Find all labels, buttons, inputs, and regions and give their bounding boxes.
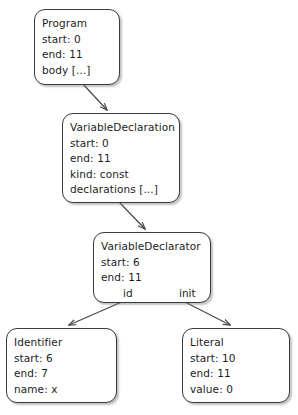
node-property-declarations: declarations [...] [63, 182, 179, 198]
node-property-end: end: 11 [183, 366, 289, 382]
node-port-init[interactable]: init [179, 286, 196, 302]
edge-variabledeclarator-to-identifier [69, 301, 124, 325]
node-property-end: end: 7 [7, 366, 116, 382]
node-property-start: start: 10 [183, 351, 289, 367]
ast-node-program[interactable]: Program start: 0 end: 11 body [...] [34, 9, 120, 85]
edge-variabledeclarator-to-literal [183, 301, 230, 325]
node-title-variable-declaration: VariableDeclaration [63, 120, 179, 136]
node-port-row: id init [94, 286, 210, 302]
node-property-body: body [...] [35, 63, 119, 79]
node-property-start: start: 0 [35, 32, 119, 48]
node-property-start: start: 6 [7, 351, 116, 367]
node-property-end: end: 11 [35, 47, 119, 63]
edge-variabledeclaration-to-variabledeclarator [120, 203, 145, 229]
node-property-end: end: 11 [94, 270, 210, 286]
node-property-kind: kind: const [63, 167, 179, 183]
node-property-name: name: x [7, 382, 116, 398]
node-property-end: end: 11 [63, 151, 179, 167]
edge-program-to-variabledeclaration [82, 83, 107, 110]
node-property-start: start: 0 [63, 136, 179, 152]
ast-node-variable-declaration[interactable]: VariableDeclaration start: 0 end: 11 kin… [62, 113, 180, 203]
node-title-identifier: Identifier [7, 335, 116, 351]
ast-node-identifier[interactable]: Identifier start: 6 end: 7 name: x [6, 328, 117, 403]
node-title-program: Program [35, 16, 119, 32]
node-property-start: start: 6 [94, 255, 210, 271]
node-port-id[interactable]: id [123, 286, 133, 302]
ast-node-variable-declarator[interactable]: VariableDeclarator start: 6 end: 11 id i… [93, 232, 211, 303]
ast-node-literal[interactable]: Literal start: 10 end: 11 value: 0 [182, 328, 290, 403]
node-property-value: value: 0 [183, 382, 289, 398]
node-title-literal: Literal [183, 335, 289, 351]
ast-diagram-canvas: Program start: 0 end: 11 body [...] Vari… [0, 0, 298, 415]
node-title-variable-declarator: VariableDeclarator [94, 239, 210, 255]
